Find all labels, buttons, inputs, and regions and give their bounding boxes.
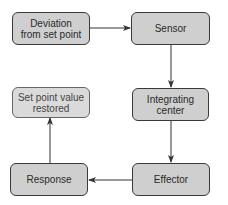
node-effector-label: Effector [154,174,188,185]
node-sensor-label: Sensor [155,23,187,34]
node-sensor: Sensor [131,12,210,45]
node-restored-label: Set point value restored [15,92,87,114]
node-integrating-center: Integrating center [132,88,209,121]
node-deviation: Deviation from set point [12,12,90,45]
node-integrating-label: Integrating center [141,94,201,116]
node-response-label: Response [26,174,71,185]
node-response: Response [10,163,88,196]
node-set-point-restored: Set point value restored [12,87,90,118]
node-deviation-label: Deviation from set point [19,18,83,40]
node-effector: Effector [132,163,210,196]
